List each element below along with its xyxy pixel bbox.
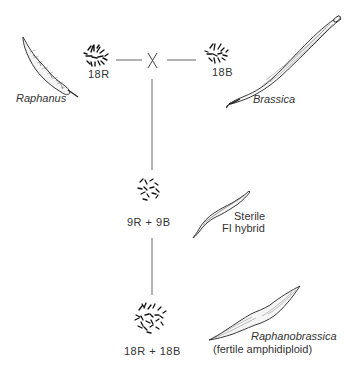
cross-lines	[116, 60, 196, 295]
amphidiploid-chromosome-count: 18R + 18B	[124, 345, 181, 357]
hybrid-label-sterile: Sterile	[234, 210, 265, 222]
brassica-chromosome-count: 18B	[212, 66, 233, 78]
raphanobrassica-label: Raphanobrassica	[251, 330, 337, 342]
chromosomes-hybrid-icon	[138, 179, 159, 200]
chromosomes-18b-icon	[205, 44, 228, 63]
brassica-label: Brassica	[253, 93, 295, 105]
fertile-amphidiploid-label: (fertile amphidiploid)	[213, 343, 312, 355]
raphanus-pod-icon	[23, 37, 78, 97]
raphanus-label: Raphanus	[16, 92, 66, 104]
raphanus-chromosome-count: 18R	[88, 68, 110, 80]
cross-symbol-icon	[148, 53, 157, 68]
diagram-canvas	[0, 0, 357, 366]
chromosomes-18r-icon	[84, 45, 108, 66]
hybrid-label-f1: FI hybrid	[222, 222, 265, 234]
hybrid-chromosome-count: 9R + 9B	[127, 216, 171, 228]
chromosomes-amphidiploid-icon	[135, 303, 166, 333]
